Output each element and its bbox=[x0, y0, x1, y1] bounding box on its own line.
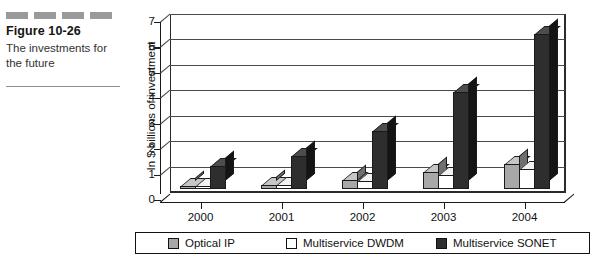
bar bbox=[534, 34, 550, 189]
bar-front-face bbox=[504, 164, 520, 189]
decorative-dashes bbox=[6, 12, 128, 19]
caption-divider bbox=[6, 86, 120, 87]
bar bbox=[504, 164, 520, 189]
gridline bbox=[170, 39, 565, 40]
y-axis-tick-label: 4 bbox=[139, 92, 155, 103]
x-axis-tick-label: 2004 bbox=[495, 211, 555, 223]
bar-front-face bbox=[438, 175, 454, 189]
x-axis-tick bbox=[444, 203, 445, 209]
x-axis-tick-label: 2003 bbox=[414, 211, 474, 223]
legend-label: Multiservice DWDM bbox=[303, 237, 404, 249]
bar bbox=[423, 172, 439, 189]
gridline bbox=[170, 141, 565, 142]
bar bbox=[210, 166, 226, 189]
legend-swatch bbox=[436, 238, 447, 249]
floor-right-edge bbox=[564, 194, 575, 203]
y-axis-tick-label: 2 bbox=[139, 143, 155, 154]
legend-item: Multiservice SONET bbox=[436, 237, 557, 249]
x-axis-tick-label: 2000 bbox=[171, 211, 231, 223]
y-axis-tick-label: 1 bbox=[139, 169, 155, 180]
x-axis-tick-label: 2002 bbox=[333, 211, 393, 223]
chart-legend: Optical IPMultiservice DWDMMultiservice … bbox=[135, 232, 590, 254]
bar-side-face bbox=[306, 140, 315, 181]
bar-front-face bbox=[276, 185, 292, 189]
bar bbox=[453, 92, 469, 189]
bar-front-face bbox=[453, 92, 469, 189]
right-wall-edge bbox=[565, 14, 566, 193]
legend-swatch bbox=[168, 238, 179, 249]
y-axis-tick bbox=[154, 47, 161, 48]
legend-label: Multiservice SONET bbox=[453, 237, 557, 249]
figure-caption-block: Figure 10-26 The investments for the fut… bbox=[6, 12, 128, 71]
y-axis-tick bbox=[154, 149, 161, 150]
bar-side-face bbox=[549, 18, 558, 181]
x-axis-tick bbox=[525, 203, 526, 209]
y-axis-tick bbox=[154, 98, 161, 99]
bar bbox=[291, 156, 307, 189]
bar-front-face bbox=[342, 180, 358, 189]
legend-label: Optical IP bbox=[185, 237, 235, 249]
bar-chart: In $ billions of investment 01234567 200… bbox=[133, 4, 593, 262]
legend-item: Multiservice DWDM bbox=[286, 237, 404, 249]
gridline bbox=[170, 90, 565, 91]
y-axis-tick-label: 7 bbox=[139, 16, 155, 27]
decorative-dash bbox=[62, 12, 84, 19]
bar-side-face bbox=[468, 77, 477, 181]
bar-front-face bbox=[210, 166, 226, 189]
y-axis-tick-label: 5 bbox=[139, 67, 155, 78]
bar bbox=[342, 180, 358, 189]
bar-side-face bbox=[387, 115, 396, 181]
bar bbox=[438, 175, 454, 189]
plot-area: 01234567 20002001200220032004 bbox=[160, 14, 570, 200]
y-axis-tick bbox=[154, 175, 161, 176]
y-axis-tick bbox=[154, 73, 161, 74]
chart-floor bbox=[160, 192, 565, 203]
bar bbox=[261, 185, 277, 189]
x-axis-tick bbox=[282, 203, 283, 209]
bar bbox=[276, 185, 292, 189]
gridline-riser bbox=[160, 14, 171, 23]
bar-front-face bbox=[423, 172, 439, 189]
gridline bbox=[170, 116, 565, 117]
decorative-dash bbox=[90, 12, 112, 19]
bar-front-face bbox=[519, 169, 535, 189]
bar-front-face bbox=[534, 34, 550, 189]
gridline bbox=[170, 14, 565, 15]
bar bbox=[195, 186, 211, 189]
x-axis-tick-label: 2001 bbox=[252, 211, 312, 223]
x-axis-tick bbox=[363, 203, 364, 209]
bar bbox=[372, 131, 388, 189]
bar-front-face bbox=[195, 186, 211, 189]
legend-swatch bbox=[286, 238, 297, 249]
figure-number: Figure 10-26 bbox=[6, 24, 128, 39]
x-axis-tick bbox=[201, 203, 202, 209]
y-axis-tick bbox=[154, 22, 161, 23]
y-axis-tick-label: 3 bbox=[139, 118, 155, 129]
decorative-dash bbox=[6, 12, 28, 19]
bar-front-face bbox=[261, 185, 277, 189]
floor-back-edge bbox=[170, 192, 565, 193]
y-axis-tick-label: 0 bbox=[139, 194, 155, 205]
figure-caption-text: The investments for the future bbox=[6, 41, 122, 71]
gridline bbox=[170, 65, 565, 66]
bar-front-face bbox=[291, 156, 307, 189]
bar-front-face bbox=[372, 131, 388, 189]
y-axis-tick-label: 6 bbox=[139, 41, 155, 52]
decorative-dash bbox=[34, 12, 56, 19]
legend-item: Optical IP bbox=[168, 237, 235, 249]
bar bbox=[357, 181, 373, 189]
bar-front-face bbox=[357, 181, 373, 189]
bar bbox=[519, 169, 535, 189]
y-axis-tick bbox=[154, 124, 161, 125]
